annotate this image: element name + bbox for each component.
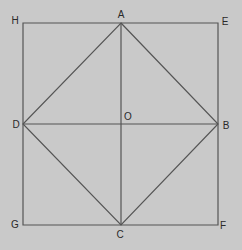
label-E: E bbox=[222, 17, 229, 27]
label-C: C bbox=[116, 230, 123, 240]
label-A: A bbox=[118, 10, 125, 20]
diagram-canvas: H A E D O B G C F bbox=[0, 0, 242, 250]
label-F: F bbox=[220, 221, 226, 231]
label-B: B bbox=[223, 121, 230, 131]
label-O: O bbox=[124, 112, 132, 122]
label-D: D bbox=[12, 120, 19, 130]
geometry-figure bbox=[0, 0, 242, 250]
label-G: G bbox=[11, 220, 19, 230]
label-H: H bbox=[11, 16, 18, 26]
